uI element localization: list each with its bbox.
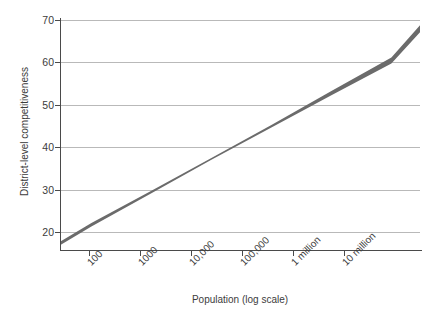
series-confidence-band <box>60 25 420 245</box>
y-tick-label-40: 40 <box>34 142 54 152</box>
y-tick-label-20: 20 <box>34 227 54 237</box>
y-tick-label-30: 30 <box>34 185 54 195</box>
y-axis-tick-labels: 70 60 50 40 30 20 <box>14 0 54 324</box>
y-tick-label-50: 50 <box>34 100 54 110</box>
gridlines <box>60 21 420 233</box>
chart-figure: District-level competitiveness 70 60 50 … <box>0 0 430 324</box>
plot-area <box>0 0 430 324</box>
y-axis-ticks <box>55 21 60 233</box>
x-axis-title: Population (log scale) <box>60 294 420 305</box>
band-polygon <box>60 25 420 245</box>
y-tick-label-60: 60 <box>34 57 54 67</box>
y-tick-label-70: 70 <box>34 15 54 25</box>
